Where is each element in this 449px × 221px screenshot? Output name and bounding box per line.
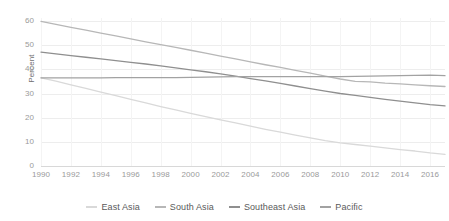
legend-swatch-icon	[155, 206, 166, 208]
line-chart: Percent 0102030405060 199019921994199619…	[0, 0, 449, 221]
legend-item-south-asia[interactable]: South Asia	[155, 202, 214, 212]
legend-label: South Asia	[170, 202, 214, 212]
legend-label: Southeast Asia	[244, 202, 305, 212]
legend-item-pacific[interactable]: Pacific	[320, 202, 362, 212]
legend-swatch-icon	[86, 206, 97, 208]
legend-label: Pacific	[335, 202, 362, 212]
plot-area	[0, 0, 449, 221]
legend-item-southeast-asia[interactable]: Southeast Asia	[229, 202, 305, 212]
series-line-east-asia	[41, 78, 445, 155]
chart-legend: East AsiaSouth AsiaSoutheast AsiaPacific	[0, 198, 449, 216]
legend-swatch-icon	[320, 206, 331, 208]
legend-item-east-asia[interactable]: East Asia	[86, 202, 139, 212]
legend-swatch-icon	[229, 206, 240, 208]
legend-label: East Asia	[101, 202, 139, 212]
